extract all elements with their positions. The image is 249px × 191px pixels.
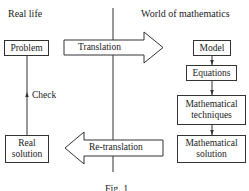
problem-label: Problem (10, 43, 42, 54)
mathematical-solution-box: Mathematical solution (177, 135, 246, 163)
check-arrowhead-icon (25, 92, 29, 97)
retranslation-label: Re-translation (89, 143, 143, 153)
mathematical-techniques-box: Mathematical techniques (177, 95, 246, 125)
techniques-label-line2: techniques (191, 110, 232, 121)
techniques-label-line1: Mathematical (185, 99, 237, 110)
real-solution-box: Real solution (5, 135, 49, 163)
solution-label-line1: Mathematical (185, 138, 237, 149)
real-solution-label-line1: Real (18, 138, 35, 149)
solution-label-line2: solution (196, 149, 227, 160)
translation-label: Translation (78, 43, 121, 53)
equations-label: Equations (193, 68, 231, 79)
heading-real-life: Real life (8, 9, 42, 19)
problem-box: Problem (4, 40, 49, 56)
model-label: Model (200, 43, 225, 54)
check-label: Check (32, 91, 56, 101)
equations-box: Equations (186, 65, 237, 81)
heading-world-of-mathematics: World of mathematics (141, 9, 230, 19)
model-box: Model (193, 40, 231, 56)
figure-caption: Fig. 1 (105, 184, 128, 191)
real-solution-label-line2: solution (12, 149, 43, 160)
